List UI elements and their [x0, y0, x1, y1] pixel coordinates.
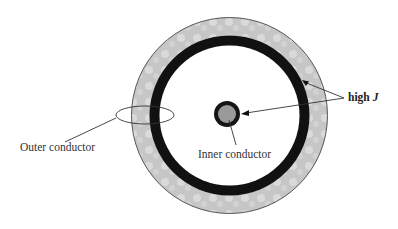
coax-cross-section-diagram — [0, 0, 398, 229]
inner-conductor-label: Inner conductor — [198, 149, 271, 161]
high-j-label: high J — [348, 92, 378, 104]
current-density-symbol: J — [373, 91, 379, 103]
outer-conductor-label: Outer conductor — [20, 142, 95, 154]
inner-conductor — [214, 101, 240, 127]
outer-conductor-leader-line — [65, 118, 116, 142]
high-j-prefix: high — [348, 91, 373, 103]
